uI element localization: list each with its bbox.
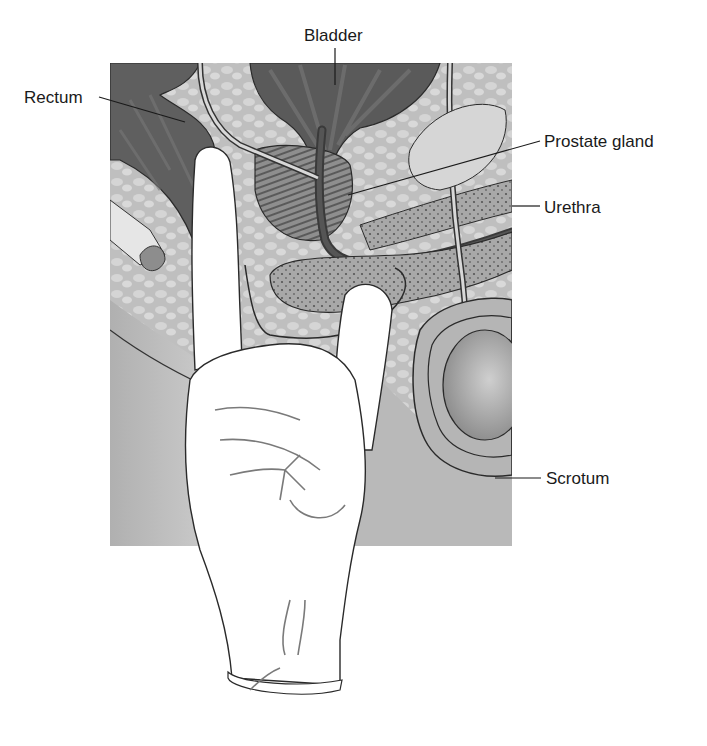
anatomy-illustration bbox=[0, 0, 707, 746]
label-bladder: Bladder bbox=[304, 27, 363, 44]
label-scrotum: Scrotum bbox=[546, 470, 609, 487]
label-prostate-gland: Prostate gland bbox=[544, 133, 654, 150]
label-urethra: Urethra bbox=[544, 199, 601, 216]
label-rectum: Rectum bbox=[24, 89, 83, 106]
